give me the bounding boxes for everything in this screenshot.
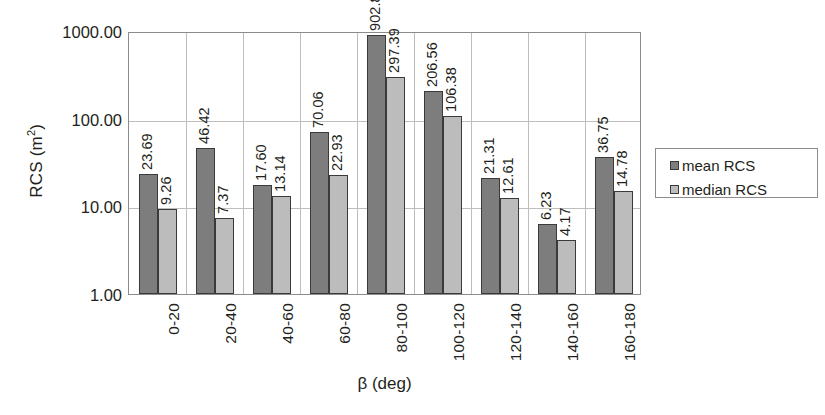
bar-value-label: 106.38 bbox=[443, 67, 459, 112]
bar-mean-40-60[interactable] bbox=[253, 185, 272, 294]
bar-value-label: 14.78 bbox=[614, 151, 630, 188]
bar-value-label: 4.17 bbox=[557, 207, 573, 236]
bar-value-label: 297.39 bbox=[386, 28, 402, 73]
y-tick-label: 10.00 bbox=[12, 198, 122, 217]
bar-value-label: 36.75 bbox=[595, 116, 611, 153]
legend-label-median: median RCS bbox=[682, 181, 767, 198]
chart-legend: mean RCS median RCS bbox=[655, 148, 818, 198]
x-tick-label: 80-100 bbox=[393, 303, 411, 352]
bar-mean-80-100[interactable] bbox=[367, 35, 386, 294]
x-tick-label: 20-40 bbox=[222, 303, 240, 344]
bar-value-label: 70.06 bbox=[310, 91, 326, 128]
bar-value-label: 7.37 bbox=[215, 185, 231, 214]
plot-area: 23.699.2646.427.3717.6013.1470.0622.9390… bbox=[128, 32, 641, 295]
bar-value-label: 22.93 bbox=[329, 134, 345, 171]
bar-mean-100-120[interactable] bbox=[424, 91, 443, 294]
bar-median-0-20[interactable] bbox=[158, 209, 177, 294]
bar-mean-60-80[interactable] bbox=[310, 132, 329, 294]
bar-group: 70.0622.93 bbox=[300, 33, 357, 294]
bar-mean-20-40[interactable] bbox=[196, 148, 215, 294]
x-tick-label: 40-60 bbox=[279, 303, 297, 344]
legend-item-mean-rcs[interactable]: mean RCS bbox=[670, 156, 817, 174]
bar-group: 36.7514.78 bbox=[585, 33, 642, 294]
bar-median-160-180[interactable] bbox=[614, 191, 633, 294]
y-tick-label: 1000.00 bbox=[12, 23, 122, 42]
x-tick-label: 100-120 bbox=[450, 303, 468, 361]
bar-median-20-40[interactable] bbox=[215, 218, 234, 294]
bar-median-40-60[interactable] bbox=[272, 196, 291, 294]
legend-label-mean: mean RCS bbox=[682, 157, 755, 174]
bar-value-label: 21.31 bbox=[481, 137, 497, 174]
bar-group: 206.56106.38 bbox=[414, 33, 471, 294]
bar-value-label: 13.14 bbox=[272, 155, 288, 192]
y-tick-label: 1.00 bbox=[12, 286, 122, 305]
bar-median-120-140[interactable] bbox=[500, 198, 519, 294]
y-axis-ticks: 1000.00100.0010.001.00 bbox=[10, 0, 122, 415]
bar-group: 21.3112.61 bbox=[471, 33, 528, 294]
bar-group: 902.87297.39 bbox=[357, 33, 414, 294]
bar-value-label: 206.56 bbox=[424, 42, 440, 87]
bar-value-label: 46.42 bbox=[196, 107, 212, 144]
bar-mean-120-140[interactable] bbox=[481, 178, 500, 294]
y-tick-label: 100.00 bbox=[12, 110, 122, 129]
bar-median-140-160[interactable] bbox=[557, 240, 576, 294]
bar-value-label: 23.69 bbox=[139, 133, 155, 170]
x-tick-label: 60-80 bbox=[336, 303, 354, 344]
bar-value-label: 17.60 bbox=[253, 144, 269, 181]
bar-group: 6.234.17 bbox=[528, 33, 585, 294]
bar-median-80-100[interactable] bbox=[386, 77, 405, 294]
bar-value-label: 9.26 bbox=[158, 177, 174, 206]
bar-value-label: 6.23 bbox=[538, 192, 554, 221]
legend-item-median-rcs[interactable]: median RCS bbox=[670, 180, 817, 198]
bar-median-100-120[interactable] bbox=[443, 116, 462, 294]
bar-mean-0-20[interactable] bbox=[139, 174, 158, 295]
legend-swatch-median-icon bbox=[670, 185, 679, 194]
bar-mean-160-180[interactable] bbox=[595, 157, 614, 294]
x-axis-title: β (deg) bbox=[128, 374, 641, 394]
legend-swatch-mean-icon bbox=[670, 161, 679, 170]
x-tick-label: 160-180 bbox=[621, 303, 639, 361]
bar-value-label: 902.87 bbox=[367, 0, 383, 31]
bar-group: 17.6013.14 bbox=[243, 33, 300, 294]
x-tick-label: 120-140 bbox=[507, 303, 525, 361]
bar-mean-140-160[interactable] bbox=[538, 224, 557, 294]
bar-median-60-80[interactable] bbox=[329, 175, 348, 294]
x-tick-label: 140-160 bbox=[564, 303, 582, 361]
rcs-bar-chart: RCS (m2) 1000.00100.0010.001.00 23.699.2… bbox=[0, 0, 825, 415]
x-tick-label: 0-20 bbox=[165, 303, 183, 335]
bar-value-label: 12.61 bbox=[500, 157, 516, 194]
bar-group: 23.699.26 bbox=[129, 33, 186, 294]
bar-group: 46.427.37 bbox=[186, 33, 243, 294]
